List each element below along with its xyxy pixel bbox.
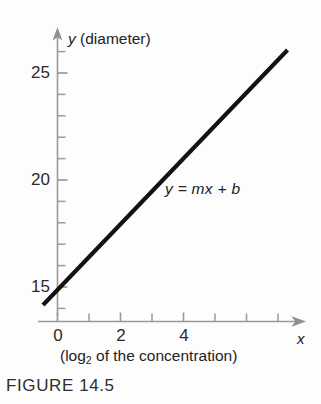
x-tick-label-2: 2: [114, 327, 128, 344]
x-tick-label-4: 4: [177, 327, 191, 344]
equation-annotation: y = mx + b: [165, 181, 240, 197]
x-tick-label-0: 0: [51, 327, 65, 344]
y-axis-ticks: [58, 52, 68, 309]
figure-caption: FIGURE 14.5: [6, 377, 115, 394]
y-tick-label-15: 15: [14, 278, 50, 295]
line-chart-plot: [0, 0, 321, 404]
y-tick-label-20: 20: [14, 171, 50, 188]
x-axis-caption: (log2 of the concentration): [60, 348, 237, 364]
y-axis-title-symbol: y: [68, 30, 76, 47]
x-axis-caption-post: of the concentration): [92, 347, 238, 364]
y-tick-label-25: 25: [14, 64, 50, 81]
x-axis-ticks: [58, 313, 279, 322]
y-axis-title-text: (diameter): [76, 30, 151, 47]
figure-container: 25 20 15 0 2 4 y (diameter) x (log2 of t…: [0, 0, 321, 404]
y-axis-group: [53, 27, 68, 316]
regression-line: [43, 50, 288, 305]
x-axis-group: [38, 313, 306, 327]
y-axis-title: y (diameter): [68, 31, 151, 47]
x-axis-symbol: x: [297, 331, 305, 346]
x-axis-caption-pre: (log: [60, 347, 86, 364]
x-axis-caption-subscript: 2: [86, 354, 92, 366]
